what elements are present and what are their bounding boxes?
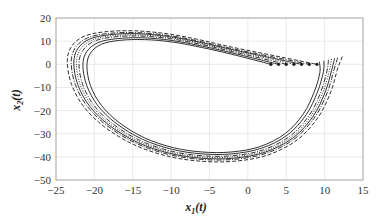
trajectory-3 bbox=[79, 36, 329, 156]
y-axis-label: x2(t) bbox=[9, 89, 25, 111]
y-tick-label: −40 bbox=[34, 151, 52, 163]
trajectory-end-marker bbox=[269, 63, 272, 66]
y-tick-label: −30 bbox=[34, 128, 52, 140]
x-tick-label: −10 bbox=[163, 184, 181, 196]
x-tick-labels: −25−20−15−10−5051015 bbox=[47, 184, 369, 196]
x-tick-label: −15 bbox=[124, 184, 142, 196]
x-tick-label: 15 bbox=[358, 184, 370, 196]
trajectory-4 bbox=[76, 35, 331, 158]
y-tick-label: −50 bbox=[34, 174, 52, 186]
y-tick-labels: −50−40−30−20−1001020 bbox=[34, 12, 52, 186]
y-tick-label: −10 bbox=[34, 81, 52, 93]
x-tick-label: 5 bbox=[284, 184, 290, 196]
x-tick-label: 0 bbox=[245, 184, 251, 196]
y-tick-label: −20 bbox=[34, 105, 52, 117]
x-axis-label: x1(t) bbox=[184, 200, 206, 216]
trajectories bbox=[67, 31, 342, 162]
trajectory-7 bbox=[67, 31, 342, 162]
trajectory-6 bbox=[71, 32, 338, 160]
trajectory-end-marker bbox=[315, 63, 318, 66]
trajectory-5 bbox=[74, 34, 335, 159]
phase-portrait-chart: −25−20−15−10−5051015 −50−40−30−20−100102… bbox=[0, 0, 379, 220]
grid bbox=[56, 18, 363, 180]
x-tick-label: 10 bbox=[319, 184, 331, 196]
x-tick-label: −20 bbox=[86, 184, 104, 196]
x-tick-label: −5 bbox=[204, 184, 216, 196]
y-tick-label: 20 bbox=[40, 12, 52, 24]
y-tick-label: 10 bbox=[40, 35, 52, 47]
y-tick-label: 0 bbox=[46, 58, 52, 70]
